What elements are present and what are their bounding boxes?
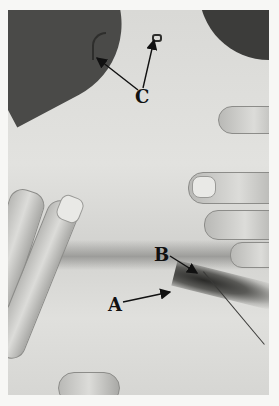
arrow-c-left [97, 58, 138, 90]
arrow-c-right [143, 40, 154, 88]
arrow-a [123, 292, 170, 302]
label-b: B [154, 244, 169, 265]
clinical-figure: C B A [0, 0, 279, 406]
label-a: A [108, 294, 122, 315]
annotation-arrows [0, 0, 279, 406]
label-c: C [135, 86, 149, 107]
arrow-b [170, 256, 197, 273]
